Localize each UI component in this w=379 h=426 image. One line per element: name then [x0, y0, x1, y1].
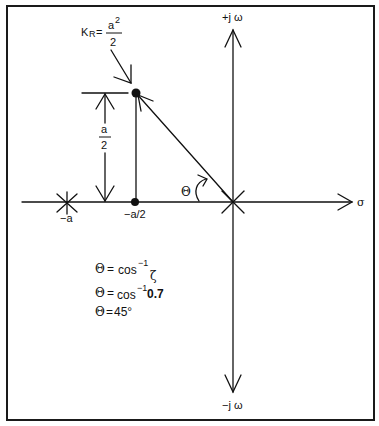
- gain-label: K R = a 2 2: [81, 15, 122, 48]
- root-locus-diagram: +j ω −j ω σ −a −a/2 K R = a 2 2 a 2 Θ Θ …: [0, 0, 379, 426]
- equation-1: Θ = cos −1 ζ: [95, 258, 157, 283]
- minus-a-half-label: −a/2: [124, 208, 146, 220]
- svg-text:=: =: [107, 286, 114, 300]
- gain-pointer: [111, 50, 131, 83]
- equation-2: Θ = cos −1 0.7: [95, 283, 164, 302]
- real-axis-label: σ: [357, 196, 365, 209]
- svg-text:a: a: [101, 123, 108, 135]
- svg-text:=: =: [107, 262, 114, 276]
- closed-loop-pole-icon: [132, 89, 141, 98]
- svg-text:cos: cos: [117, 288, 136, 302]
- svg-text:a: a: [108, 19, 115, 31]
- svg-text:45°: 45°: [114, 305, 132, 319]
- svg-text:=: =: [106, 305, 113, 319]
- angle-theta-label: Θ: [181, 185, 191, 199]
- imag-pos-label: +j ω: [222, 11, 243, 23]
- svg-text:Θ: Θ: [95, 262, 105, 276]
- svg-text:K: K: [81, 26, 89, 38]
- svg-text:−1: −1: [138, 258, 148, 268]
- gain-pointer-arrow-icon: [114, 65, 131, 83]
- svg-text:0.7: 0.7: [147, 287, 164, 301]
- pole-minus-a-icon: [57, 192, 77, 214]
- imag-neg-label: −j ω: [222, 399, 243, 411]
- svg-text:=: =: [96, 26, 102, 38]
- breakaway-point-icon: [131, 198, 139, 206]
- minus-a-label: −a: [60, 212, 73, 224]
- svg-text:Θ: Θ: [95, 305, 105, 319]
- svg-text:−1: −1: [137, 283, 147, 293]
- svg-text:R: R: [89, 29, 96, 39]
- svg-text:2: 2: [101, 139, 107, 151]
- svg-text:2: 2: [110, 36, 116, 48]
- equation-3: Θ = 45°: [95, 305, 132, 319]
- svg-text:ζ: ζ: [150, 269, 157, 283]
- svg-text:Θ: Θ: [95, 286, 105, 300]
- svg-text:cos: cos: [118, 263, 137, 277]
- svg-text:2: 2: [115, 15, 120, 25]
- dimension-label: a 2: [99, 123, 111, 151]
